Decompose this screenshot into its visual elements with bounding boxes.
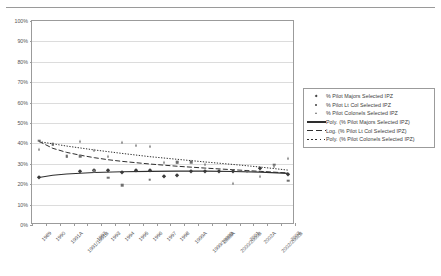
data-point-square	[93, 170, 96, 173]
chart-legend: % Pilot Majors Selected IPZ% Pilot Lt Co…	[303, 88, 435, 148]
chart-canvas: 100%90%80%70%60%50%40%30%20%10%0% 198919…	[0, 0, 441, 276]
y-axis-tick-label: 100%	[14, 18, 28, 24]
legend-item-label: Log. (% Pilot Lt Col Selected IPZ)	[326, 128, 407, 134]
data-point-square	[107, 176, 110, 179]
data-point-triangle	[107, 155, 109, 158]
legend-item-label: % Pilot Colonels Selected IPZ	[326, 110, 398, 116]
x-axis-tick-label: 1993	[109, 230, 121, 242]
data-point-triangle	[273, 165, 275, 168]
data-point-diamond	[162, 174, 166, 178]
data-point-triangle	[163, 160, 165, 163]
y-axis-tick-label: 60%	[17, 100, 28, 106]
x-axis-tick-label: 1994	[123, 230, 135, 242]
data-point-triangle	[121, 140, 123, 143]
x-axis-tick-label: 2000A	[221, 230, 236, 245]
legend-item: % Pilot Majors Selected IPZ	[306, 92, 431, 101]
data-point-triangle	[93, 148, 95, 151]
y-axis-tick-label: 80%	[17, 59, 28, 65]
data-point-triangle	[204, 163, 206, 166]
y-axis-tick-label: 70%	[17, 79, 28, 85]
data-point-square	[38, 139, 41, 142]
data-point-triangle	[135, 143, 137, 146]
plot-area: 100%90%80%70%60%50%40%30%20%10%0% 198919…	[31, 20, 294, 224]
legend-item-label: Poly. (% Pilot Majors Selected IPZ)	[326, 119, 410, 125]
x-axis-tick-label: 2002A	[263, 230, 278, 245]
legend-item: Poly. (% Pilot Majors Selected IPZ)	[306, 118, 431, 127]
legend-item-label: Poly. (% Pilot Colonels Selected IPZ)	[326, 136, 415, 142]
legend-dashed-line-icon	[306, 126, 326, 135]
trendline-dashed	[39, 141, 288, 173]
y-axis-tick-label: 40%	[17, 140, 28, 146]
data-point-triangle	[259, 175, 261, 178]
x-axis-tick-label: 1995	[137, 230, 149, 242]
trendline-dotted	[39, 142, 288, 171]
square-marker-glyph	[315, 104, 317, 106]
data-point-triangle	[287, 157, 289, 160]
legend-item: % Pilot Lt Col Selected IPZ	[306, 101, 431, 110]
legend-item: % Pilot Colonels Selected IPZ	[306, 109, 431, 118]
data-point-triangle	[176, 160, 178, 163]
y-axis-tick-label: 30%	[17, 161, 28, 167]
legend-item: Poly. (% Pilot Colonels Selected IPZ)	[306, 135, 431, 144]
diamond-marker-glyph	[314, 95, 317, 98]
legend-square-marker-icon	[306, 101, 326, 110]
triangle-marker-glyph	[315, 112, 317, 114]
solid-line-glyph	[307, 121, 326, 122]
x-axis-tick-label: 1989	[40, 230, 52, 242]
data-point-triangle	[190, 159, 192, 162]
data-point-triangle	[232, 181, 234, 184]
data-point-triangle	[79, 139, 81, 142]
y-axis-tick-label: 50%	[17, 120, 28, 126]
legend-dotted-line-icon	[306, 135, 326, 144]
x-axis-tick-label: 1997	[165, 230, 177, 242]
trendline-layer	[32, 21, 295, 225]
data-point-square	[287, 179, 290, 182]
data-point-square	[121, 184, 124, 187]
x-axis-tick-label: 1990	[54, 230, 66, 242]
x-axis-tick-label: 1999A	[193, 230, 208, 245]
legend-item-label: % Pilot Majors Selected IPZ	[326, 93, 393, 99]
data-point-triangle	[246, 169, 248, 172]
y-axis-tick-label: 90%	[17, 38, 28, 44]
dotted-line-glyph	[307, 139, 326, 140]
legend-triangle-marker-icon	[306, 109, 326, 118]
data-point-triangle	[66, 155, 68, 158]
legend-item-label: % Pilot Lt Col Selected IPZ	[326, 102, 391, 108]
data-point-triangle	[52, 143, 54, 146]
legend-item: Log. (% Pilot Lt Col Selected IPZ)	[306, 126, 431, 135]
x-axis-tick-label: 1998	[179, 230, 191, 242]
x-axis-tick-label: 1991A	[69, 230, 84, 245]
x-axis-tick	[295, 223, 296, 226]
legend-solid-line-icon	[306, 118, 326, 127]
dashed-line-glyph	[307, 130, 326, 131]
data-point-triangle	[38, 148, 40, 151]
data-point-triangle	[149, 145, 151, 148]
y-axis-tick-label: 0%	[20, 222, 28, 228]
data-point-square	[148, 178, 151, 181]
y-axis-tick-label: 10%	[17, 202, 28, 208]
data-point-square	[79, 155, 82, 158]
legend-diamond-marker-icon	[306, 92, 326, 101]
x-axis-tick-label: 1996	[151, 230, 163, 242]
y-axis-tick-label: 20%	[17, 181, 28, 187]
